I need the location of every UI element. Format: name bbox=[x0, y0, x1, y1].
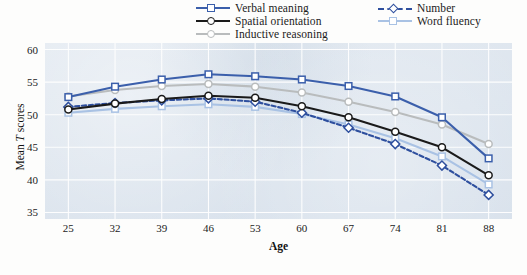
legend-marker-diamond-icon bbox=[378, 2, 412, 14]
legend-entry-word-fluency[interactable]: Word fluency bbox=[378, 15, 481, 27]
legend-marker-circle-icon bbox=[196, 15, 230, 27]
data-point-marker bbox=[298, 89, 305, 96]
data-point-marker bbox=[252, 94, 259, 101]
y-axis-title: Mean T scores bbox=[14, 82, 26, 192]
legend-marker-square-icon bbox=[196, 2, 230, 14]
data-point-marker bbox=[392, 109, 399, 116]
x-axis-title: Age bbox=[45, 240, 512, 252]
data-point-marker bbox=[112, 100, 119, 107]
x-tick-label: 32 bbox=[110, 222, 121, 234]
data-point-marker bbox=[299, 76, 306, 83]
legend-symbol-square bbox=[389, 17, 397, 25]
y-axis-title-italic: T bbox=[14, 135, 26, 141]
data-point-marker bbox=[112, 83, 119, 90]
data-point-marker bbox=[345, 114, 352, 121]
chart-figure: Verbal meaningSpatial orientationInducti… bbox=[0, 0, 527, 275]
legend-symbol-circle bbox=[207, 30, 215, 38]
legend-symbol-square bbox=[207, 4, 215, 12]
legend-label: Inductive reasoning bbox=[230, 28, 328, 40]
plot-area bbox=[45, 43, 512, 219]
y-tick-label: 60 bbox=[27, 44, 38, 56]
legend-label: Number bbox=[412, 2, 455, 14]
series-line-inductive-reasoning bbox=[68, 84, 488, 144]
legend-marker-square-icon bbox=[378, 15, 412, 27]
data-point-marker bbox=[485, 155, 492, 162]
data-point-marker bbox=[205, 71, 212, 78]
data-point-marker bbox=[485, 181, 492, 188]
x-tick-label: 81 bbox=[436, 222, 447, 234]
data-point-marker bbox=[252, 73, 259, 80]
x-axis-tick-labels: 25323946536067748188 bbox=[45, 222, 512, 238]
data-point-marker bbox=[439, 153, 446, 160]
data-point-marker bbox=[205, 81, 212, 88]
legend-label: Verbal meaning bbox=[230, 2, 309, 14]
data-point-marker bbox=[438, 144, 445, 151]
legend-marker-circle-icon bbox=[196, 28, 230, 40]
x-tick-label: 46 bbox=[203, 222, 214, 234]
y-tick-label: 40 bbox=[27, 174, 38, 186]
x-tick-label: 25 bbox=[63, 222, 74, 234]
legend-symbol-diamond bbox=[389, 3, 399, 13]
data-point-marker bbox=[65, 94, 72, 101]
data-point-marker bbox=[392, 128, 399, 135]
legend-entry-verbal-meaning[interactable]: Verbal meaning bbox=[196, 2, 309, 14]
plot-svg bbox=[45, 43, 512, 219]
x-tick-label: 88 bbox=[483, 222, 494, 234]
x-tick-label: 60 bbox=[296, 222, 307, 234]
data-point-marker bbox=[485, 172, 492, 179]
y-tick-label: 50 bbox=[27, 109, 38, 121]
legend-entry-spatial-orientation[interactable]: Spatial orientation bbox=[196, 15, 322, 27]
data-point-marker bbox=[438, 121, 445, 128]
legend-entry-number[interactable]: Number bbox=[378, 2, 455, 14]
y-tick-label: 55 bbox=[27, 76, 38, 88]
data-point-marker bbox=[439, 114, 446, 121]
legend-symbol-circle bbox=[207, 17, 215, 25]
data-point-marker bbox=[158, 96, 165, 103]
series-line-verbal-meaning bbox=[68, 74, 488, 158]
x-tick-label: 39 bbox=[156, 222, 167, 234]
legend-label: Word fluency bbox=[412, 15, 481, 27]
chart-legend: Verbal meaningSpatial orientationInducti… bbox=[196, 2, 516, 42]
legend-entry-inductive-reasoning[interactable]: Inductive reasoning bbox=[196, 28, 328, 40]
x-tick-label: 74 bbox=[390, 222, 401, 234]
x-tick-label: 53 bbox=[250, 222, 261, 234]
y-tick-label: 45 bbox=[27, 141, 38, 153]
data-point-marker bbox=[65, 106, 72, 113]
data-point-marker bbox=[298, 103, 305, 110]
x-tick-label: 67 bbox=[343, 222, 354, 234]
legend-label: Spatial orientation bbox=[230, 15, 322, 27]
data-point-marker bbox=[345, 98, 352, 105]
data-point-marker bbox=[345, 83, 352, 90]
series-line-word-fluency bbox=[68, 104, 488, 184]
data-point-marker bbox=[158, 83, 165, 90]
data-point-marker bbox=[252, 83, 259, 90]
data-point-marker bbox=[205, 92, 212, 99]
data-point-marker bbox=[392, 93, 399, 100]
y-tick-label: 35 bbox=[27, 206, 38, 218]
data-point-marker bbox=[485, 141, 492, 148]
data-point-marker bbox=[158, 76, 165, 83]
